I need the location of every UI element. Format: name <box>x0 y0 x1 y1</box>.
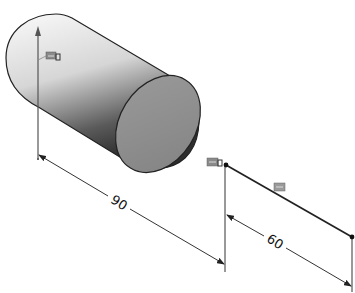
sketch-line[interactable] <box>224 163 355 240</box>
dimension-line-60a <box>227 215 264 236</box>
dimension-line-90b <box>130 209 224 264</box>
dimension-line-90a <box>39 155 108 196</box>
dimension-line-60b <box>286 248 351 286</box>
line-horizontal-relation-icon[interactable] <box>274 183 285 191</box>
dimension-value-90[interactable]: 90 <box>108 192 130 213</box>
dimension-90[interactable]: 90 <box>38 155 225 272</box>
dimension-value-60[interactable]: 60 <box>264 231 286 252</box>
sketch-endpoint-end[interactable] <box>350 235 355 240</box>
endpoint-relation-icon[interactable] <box>207 158 222 166</box>
graphics-area[interactable]: 90 60 <box>0 0 355 293</box>
sketch-endpoint-start[interactable] <box>224 163 229 168</box>
